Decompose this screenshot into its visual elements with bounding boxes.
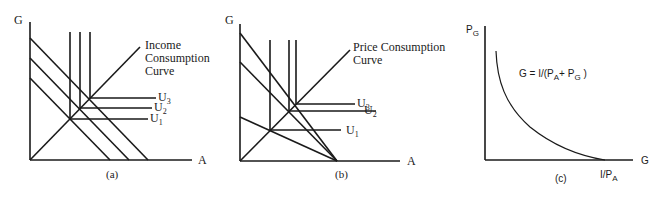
panel-c-caption: (c) xyxy=(555,173,567,184)
panel-b-curve-label-line1: Price Consumption xyxy=(353,40,445,54)
panel-c-y-label: PG xyxy=(466,24,479,38)
panel-b: G A Price Consumption Curve U3 U2 U1 (b) xyxy=(225,13,445,181)
panel-a-caption: (a) xyxy=(106,168,119,181)
panel-b-price-consumption-curve xyxy=(240,50,350,161)
panel-a: G A Income Consumption Curve U3 U2 U1 (a… xyxy=(14,13,210,181)
panel-b-x-label: A xyxy=(407,154,416,168)
panel-a-curve-label-line1: Income xyxy=(145,38,181,52)
panel-c-equation: G = I/(PA+ PG ) xyxy=(519,68,587,82)
panel-a-curve-label-line2: Consumption xyxy=(145,51,210,65)
panel-a-income-consumption-curve xyxy=(30,47,140,160)
panel-b-u2-label: U2 xyxy=(364,103,377,119)
panel-b-curve-label-line2: Curve xyxy=(353,53,382,67)
panel-a-curve-label-line3: Curve xyxy=(145,64,174,78)
panel-c-x-label: G xyxy=(641,155,649,166)
diagram-canvas: G A Income Consumption Curve U3 U2 U1 (a… xyxy=(0,0,656,199)
panel-b-u1-label: U1 xyxy=(346,123,359,139)
panel-b-indifference-curve-u3 xyxy=(296,40,355,104)
panel-c-x-intercept-label: I/PA xyxy=(600,169,618,183)
panel-a-y-label: G xyxy=(14,13,23,27)
panel-b-caption: (b) xyxy=(335,168,348,181)
panel-b-y-label: G xyxy=(225,13,234,27)
panel-c: PG G G = I/(PA+ PG ) I/PA (c) xyxy=(466,24,649,184)
panel-b-budget-line-1 xyxy=(240,117,337,161)
panel-b-indifference-curve-u1 xyxy=(270,40,341,130)
panel-a-x-label: A xyxy=(198,153,207,167)
